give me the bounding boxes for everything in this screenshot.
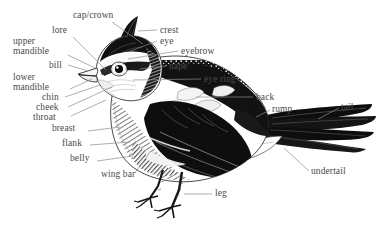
label-throat: throat <box>33 112 56 122</box>
label-breast: breast <box>52 123 75 133</box>
label-wing-bar: wing bar <box>101 169 135 179</box>
label-belly: belly <box>70 153 90 163</box>
label-nape: nape <box>169 61 187 71</box>
leader-cheek <box>68 87 112 107</box>
label-crest: crest <box>160 25 178 35</box>
label-eyebrow: eyebrow <box>181 46 214 56</box>
label-eye-ring: eye ring <box>204 74 236 84</box>
label-undertail: undertail <box>311 166 346 176</box>
label-leg: leg <box>215 188 227 198</box>
label-rump: rump <box>272 104 292 114</box>
eye-highlight <box>116 66 119 69</box>
leader-bill <box>68 65 88 71</box>
bird-anatomy-diagram: cap/crown lore upper mandible bill lower… <box>0 0 381 232</box>
leader-crest <box>138 30 157 31</box>
label-flank: flank <box>62 138 82 148</box>
label-lore: lore <box>52 25 67 35</box>
leader-throat <box>71 100 106 116</box>
label-cap-crown: cap/crown <box>73 10 113 20</box>
label-lower-mandible: lower mandible <box>13 72 49 92</box>
foot-near <box>154 205 181 218</box>
label-eye: eye <box>160 36 173 46</box>
leader-undertail <box>284 148 309 171</box>
label-tail: tail <box>341 102 354 112</box>
label-back: back <box>256 92 274 102</box>
eye <box>111 62 128 76</box>
bill <box>78 68 98 82</box>
bird-body-group <box>78 16 376 218</box>
leader-lower-mandible <box>70 79 92 89</box>
label-bill: bill <box>49 60 62 70</box>
foot-far <box>134 196 158 208</box>
label-cheek: cheek <box>36 102 59 112</box>
head-group <box>78 16 163 106</box>
label-upper-mandible: upper mandible <box>13 36 49 56</box>
label-chin: chin <box>42 92 59 102</box>
eye-pupil <box>115 65 123 73</box>
